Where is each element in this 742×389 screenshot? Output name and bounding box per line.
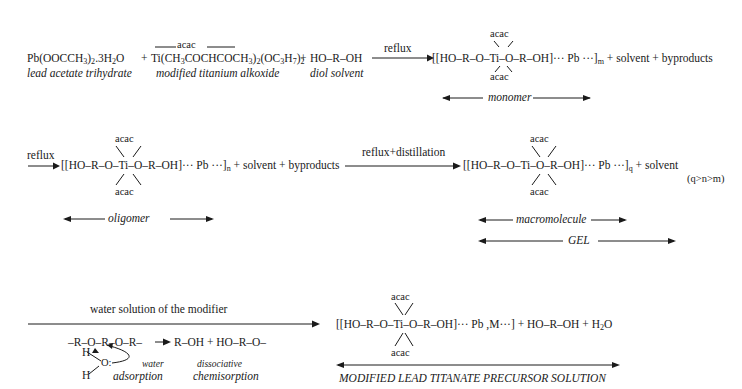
acac-label: acac — [490, 28, 509, 39]
acac-label: acac — [115, 186, 134, 197]
diol-solvent-label: diol solvent — [310, 67, 363, 79]
oligomer-label: oligomer — [108, 212, 150, 224]
titanium-alkoxide-formula: Ti(CH3COCHCOCH3)2(OC3H7)2 — [151, 52, 305, 64]
plus-sign: + — [300, 52, 307, 64]
chain-formula: –R–O–R–O–R– — [68, 336, 142, 348]
water-label: water — [142, 359, 164, 369]
monomer-label: monomer — [488, 91, 531, 103]
acac-label: acac — [530, 186, 549, 197]
macromolecule-formula: [[HO–R–O–Ti–O–R–OH]··· Pb ···]q + solven… — [463, 159, 678, 171]
hydrogen-atom: H — [82, 369, 90, 381]
lead-acetate-formula: Pb(OOCCH3)2.3H2O — [27, 52, 124, 64]
chemisorption-label: chemisorption — [193, 370, 259, 382]
adsorption-label: adsorption — [113, 370, 163, 382]
precursor-formula: [[HO–R–O–Ti–O–R–OH]··· Pb ,M···] + HO–R–… — [336, 318, 612, 330]
monomer-formula: [[HO–R–O–Ti–O–R–OH]··· Pb ···]m + solven… — [432, 52, 713, 64]
reflux-distillation-label: reflux+distillation — [362, 146, 445, 158]
reflux-label: reflux — [384, 42, 411, 54]
acac-label: acac — [391, 347, 410, 358]
water-modifier-label: water solution of the modifier — [90, 303, 227, 315]
plus-sign: + — [141, 52, 148, 64]
acac-label: acac — [177, 39, 196, 50]
dissociative-label: dissociative — [197, 359, 242, 369]
reflux-label: reflux — [27, 149, 54, 161]
acac-label: acac — [391, 291, 410, 302]
condition-label: (q>n>m) — [687, 173, 725, 184]
acac-label: acac — [490, 71, 509, 82]
macromolecule-label: macromolecule — [516, 213, 586, 225]
precursor-solution-label: MODIFIED LEAD TITANATE PRECURSOR SOLUTIO… — [339, 372, 606, 384]
acac-label: acac — [530, 133, 549, 144]
oxygen-atom: O: — [101, 357, 112, 368]
hydrogen-atom: H — [82, 346, 90, 358]
oligomer-formula: [[HO–R–O–Ti–O–R–OH]··· Pb ···]n + solven… — [61, 159, 340, 171]
lead-acetate-label: lead acetate trihydrate — [27, 67, 132, 79]
gel-label: GEL — [568, 234, 590, 246]
diol-formula: HO–R–OH — [310, 52, 362, 64]
hydrolysis-products: R–OH + HO–R–O– — [174, 336, 266, 348]
titanium-alkoxide-label: modified titanium alkoxide — [156, 67, 279, 79]
acac-label: acac — [115, 133, 134, 144]
